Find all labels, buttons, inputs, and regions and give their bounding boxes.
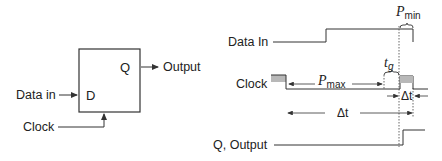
clock-pulse-left bbox=[271, 75, 286, 82]
t-g-label: tg bbox=[384, 56, 393, 70]
timing-output-label: Q, Output bbox=[213, 139, 267, 152]
pmin-brace bbox=[400, 23, 413, 28]
q-pin-label: Q bbox=[120, 61, 130, 74]
p-max-subscript: max bbox=[327, 79, 346, 90]
t-g-subscript: g bbox=[388, 61, 394, 72]
p-max-symbol: P bbox=[318, 73, 327, 88]
delta-t-small-label: Δt bbox=[401, 90, 412, 102]
clock-label: Clock bbox=[23, 121, 54, 134]
p-max-label: Pmax bbox=[318, 74, 345, 88]
data-in-label: Data in bbox=[16, 89, 56, 102]
output-label: Output bbox=[163, 61, 201, 74]
p-min-subscript: min bbox=[405, 10, 421, 21]
p-min-label: Pmin bbox=[396, 5, 421, 19]
p-min-symbol: P bbox=[396, 4, 405, 19]
clock-line bbox=[58, 114, 104, 127]
timing-data-in-label: Data In bbox=[228, 36, 268, 49]
diagram-canvas bbox=[0, 0, 442, 161]
data-in-waveform bbox=[273, 29, 413, 42]
q-output-waveform bbox=[274, 130, 425, 145]
timing-clock-label: Clock bbox=[236, 78, 267, 91]
clock-pulse-right bbox=[400, 76, 413, 83]
d-pin-label: D bbox=[86, 89, 95, 102]
delta-t-large-label: Δt bbox=[337, 107, 348, 119]
